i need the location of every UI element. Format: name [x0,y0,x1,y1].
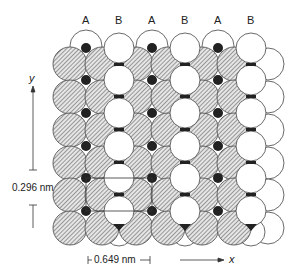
column-label-6: B [247,14,254,26]
vertical-dimension-label: 0.296 nm [12,182,54,193]
column-label-5: A [214,14,221,26]
horizontal-dimension-label: 0.649 nm [94,254,136,265]
column-label-3: A [148,14,155,26]
column-label-1: A [82,14,89,26]
lattice-drawing [0,0,290,274]
column-label-4: B [181,14,188,26]
column-label-2: B [115,14,122,26]
x-axis-label: x [229,253,235,265]
y-axis-label: y [29,72,35,84]
crystal-structure-diagram: A B A B A B y x 0.296 nm 0.649 nm [0,0,290,274]
